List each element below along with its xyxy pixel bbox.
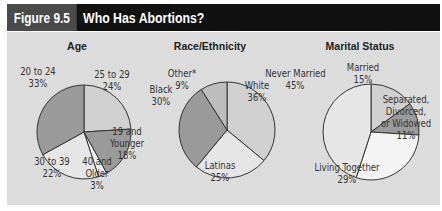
- chart-panel: Age 20 to 2433% 25 to 2924% 19 andYounge…: [7, 32, 440, 205]
- label-marital-never: Never Married45%: [265, 68, 325, 92]
- chart-title-age: Age: [47, 40, 107, 52]
- label-age-25-29: 25 to 2924%: [89, 69, 135, 93]
- figure-title: Who Has Abortions?: [83, 10, 204, 26]
- label-marital-separated: Separated,Divorced,or Widowed11%: [380, 94, 433, 142]
- label-age-20-24: 20 to 2433%: [15, 66, 61, 90]
- label-age-19-younger: 19 andYounger18%: [109, 126, 145, 162]
- label-age-30-39: 30 to 3922%: [31, 156, 74, 180]
- label-marital-married: Married15%: [343, 62, 382, 86]
- chart-title-marital: Marital Status: [320, 40, 400, 52]
- chart-title-race: Race/Ethnicity: [170, 40, 250, 52]
- label-race-black: Black30%: [146, 84, 177, 108]
- label-race-latinas: Latinas25%: [199, 160, 242, 184]
- figure-number: Figure 9.5: [7, 4, 77, 31]
- label-age-40-older: 40 andOlder3%: [80, 156, 114, 192]
- label-marital-living: Living Together29%: [313, 162, 381, 186]
- figure-header: Figure 9.5 Who Has Abortions?: [7, 4, 440, 31]
